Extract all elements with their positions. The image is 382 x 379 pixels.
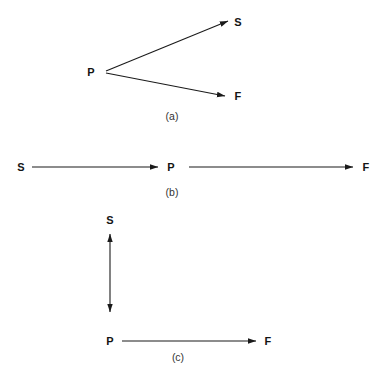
node-label-f-c: F bbox=[265, 336, 272, 347]
panel-c-arrows bbox=[110, 234, 256, 341]
panel-caption-b: (b) bbox=[166, 187, 179, 198]
arrow-p-to-s-a bbox=[106, 21, 228, 71]
node-label-s-b: S bbox=[17, 162, 25, 173]
node-label-f-a: F bbox=[235, 91, 242, 102]
panel-a-arrows bbox=[106, 21, 228, 96]
arrow-p-to-f-a bbox=[106, 73, 225, 96]
panel-caption-c: (c) bbox=[172, 352, 184, 363]
panel-caption-a: (a) bbox=[166, 111, 179, 122]
diagram-canvas bbox=[0, 0, 382, 379]
node-label-p-c: P bbox=[106, 336, 114, 347]
node-label-p-b: P bbox=[167, 162, 175, 173]
node-label-f-b: F bbox=[363, 162, 370, 173]
node-label-p-a: P bbox=[87, 67, 95, 78]
transition-diagram-figure: P S F (a) S P F (b) S P F (c) bbox=[0, 0, 382, 379]
node-label-s-c: S bbox=[106, 215, 114, 226]
node-label-s-a: S bbox=[234, 17, 242, 28]
